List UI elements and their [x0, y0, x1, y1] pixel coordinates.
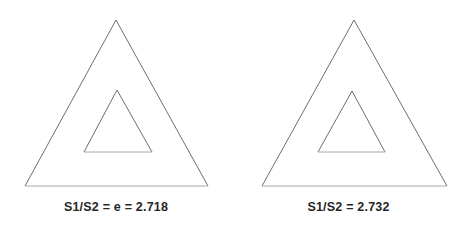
figure-panel-right: S1/S2 = 2.732 — [232, 0, 465, 230]
inner-triangle-right — [318, 91, 385, 152]
inner-triangle-left — [84, 90, 152, 152]
nested-triangles-right — [232, 0, 465, 196]
nested-triangles-left — [0, 0, 232, 196]
caption-left: S1/S2 = e = 2.718 — [0, 199, 232, 215]
figure-panel-left: S1/S2 = e = 2.718 — [0, 0, 232, 230]
caption-right: S1/S2 = 2.732 — [232, 199, 465, 215]
figure-root: S1/S2 = e = 2.718 S1/S2 = 2.732 — [0, 0, 465, 230]
outer-triangle-left — [25, 20, 208, 186]
outer-triangle-right — [262, 20, 447, 186]
